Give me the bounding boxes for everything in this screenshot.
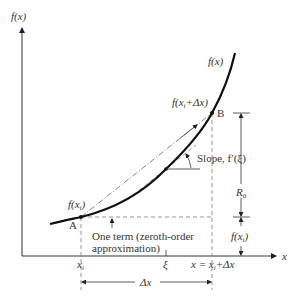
f-xi-dx-label: f(xi+Δx) [172,96,208,110]
secant-arrow [180,125,197,138]
point-b [210,111,214,115]
tick-xi-label: xi [76,258,84,272]
delta-x-label: Δx [139,276,151,288]
y-axis-label: f(x) [11,10,27,23]
tick-x-label: x = xi+Δx [190,258,235,272]
point-b-label: B [217,107,224,119]
point-a-label: A [69,219,77,231]
x-axis-label: x [281,250,287,262]
f-xi-label: f(xi) [68,198,86,212]
r0-label: R0 [235,186,247,200]
slope-label: Slope, f′(ξ) [197,152,246,165]
slope-angle-arc [186,154,191,168]
right-f-xi-label: f(xi) [231,230,249,244]
point-a [79,215,83,219]
taylor-zeroth-order-diagram: f(x) x f(x) B A f(xi+Δx) f(xi) Slope, f′… [0,0,300,303]
tick-xi-greek-label: ξ [163,258,168,271]
zeroth-order-line2: approximation) [92,242,160,255]
curve-label: f(x) [208,55,224,68]
